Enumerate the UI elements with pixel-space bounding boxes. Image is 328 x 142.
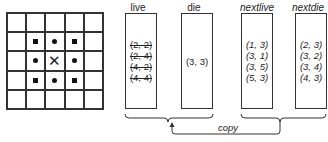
copy-arrow-braces-icon	[0, 0, 328, 142]
copy-label: copy	[218, 122, 238, 133]
